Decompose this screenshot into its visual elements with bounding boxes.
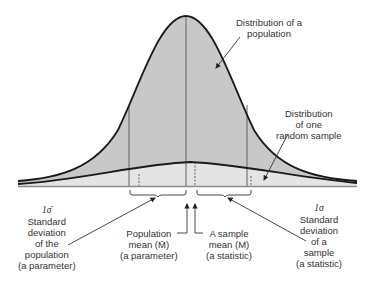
population-distribution-label: Distribution of a population — [236, 17, 302, 39]
sample-sd-symbol: 1σ — [296, 203, 342, 214]
sample-mean-label: A sample mean (M) (a statistic) — [206, 228, 252, 261]
population-sd-label: 1σ̄ Standard deviation of the population… — [18, 205, 76, 271]
population-sd-bracket — [130, 190, 186, 197]
sample-sd-label: 1σ Standard deviation of a sample (a sta… — [296, 203, 342, 269]
sample-mean-arrow — [195, 204, 203, 233]
population-mean-label: Population mean (M̄) (a parameter) — [120, 228, 178, 261]
sample-sd-bracket — [197, 190, 251, 197]
population-sd-symbol: 1σ̄ — [18, 205, 76, 216]
population-curve — [18, 16, 357, 186]
sample-distribution-label: Distribution of one random sample — [276, 108, 341, 141]
population-mean-arrow — [177, 204, 187, 233]
